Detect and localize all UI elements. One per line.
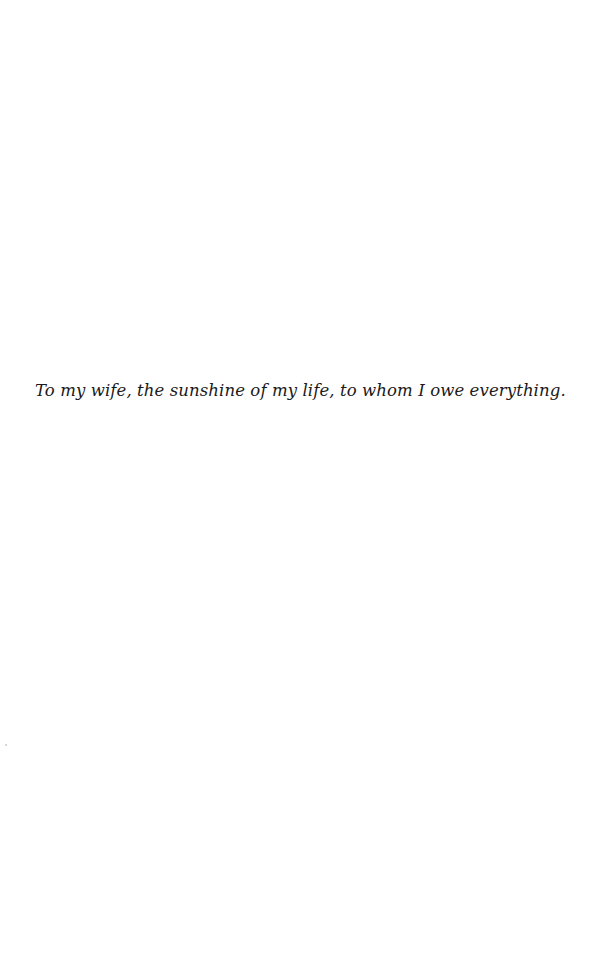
dedication-text: To my wife, the sunshine of my life, to … — [35, 381, 566, 400]
document-page: To my wife, the sunshine of my life, to … — [0, 0, 600, 955]
scan-artifact — [5, 744, 7, 746]
